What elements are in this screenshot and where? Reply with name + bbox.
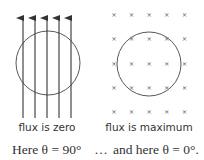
field-into-page-mark: ×: [182, 84, 187, 92]
left-caption: flux is zero: [18, 121, 75, 133]
field-into-page-mark: ×: [146, 60, 151, 68]
field-into-page-mark: ×: [164, 108, 169, 116]
field-into-page-mark: ×: [129, 35, 134, 43]
left-loop-circle: [16, 31, 80, 95]
field-into-page-mark: ×: [146, 108, 151, 116]
field-into-page-mark: ×: [164, 84, 169, 92]
field-into-page-mark: ×: [164, 11, 169, 19]
field-into-page-mark: ×: [182, 108, 187, 116]
field-into-page-mark: ×: [129, 11, 134, 19]
flux-diagram: flux is zero ××××××××××××××××××××××××× f…: [0, 0, 204, 160]
ellipsis: …: [94, 142, 108, 157]
left-angle-statement: Here θ = 90°: [12, 142, 81, 157]
field-into-page-mark: ×: [129, 84, 134, 92]
field-into-page-mark: ×: [146, 11, 151, 19]
field-into-page-mark: ×: [164, 35, 169, 43]
field-into-page-mark: ×: [111, 35, 116, 43]
field-into-page-mark: ×: [182, 11, 187, 19]
right-panel: ××××××××××××××××××××××××× flux is maximu…: [105, 11, 192, 133]
field-into-page-mark: ×: [164, 60, 169, 68]
field-into-page-mark: ×: [111, 11, 116, 19]
field-into-page-mark: ×: [182, 60, 187, 68]
field-into-page-mark: ×: [146, 35, 151, 43]
right-angle-statement: and here θ = 0°.: [113, 142, 199, 157]
field-into-page-marks: ×××××××××××××××××××××××××: [111, 11, 187, 116]
field-into-page-mark: ×: [146, 84, 151, 92]
field-lines: [23, 18, 71, 118]
right-caption: flux is maximum: [105, 121, 192, 133]
field-into-page-mark: ×: [129, 108, 134, 116]
left-panel: flux is zero: [16, 18, 80, 133]
field-into-page-mark: ×: [111, 108, 116, 116]
field-into-page-mark: ×: [111, 60, 116, 68]
field-into-page-mark: ×: [129, 60, 134, 68]
field-into-page-mark: ×: [111, 84, 116, 92]
field-into-page-mark: ×: [182, 35, 187, 43]
